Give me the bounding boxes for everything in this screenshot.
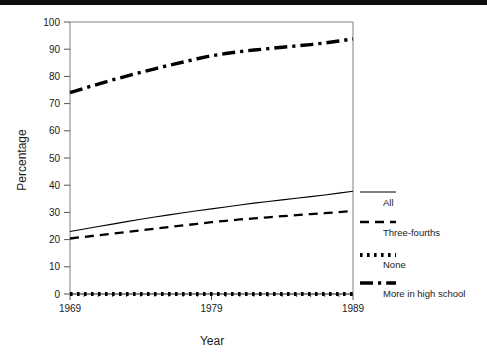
legend-label: None (383, 259, 406, 270)
legend-label: All (383, 197, 394, 208)
legend-label: More in high school (383, 288, 465, 299)
y-tick-label: 50 (49, 153, 61, 164)
y-axis-ticks (64, 22, 70, 294)
series-line (70, 211, 353, 238)
y-tick-label: 30 (49, 207, 61, 218)
y-tick-label: 40 (49, 180, 61, 191)
x-tick-label: 1979 (200, 303, 223, 314)
chart-figure: 0102030405060708090100 196919791989 Perc… (0, 0, 487, 356)
line-chart: 0102030405060708090100 196919791989 Perc… (0, 0, 487, 356)
y-tick-label: 80 (49, 71, 61, 82)
y-tick-label: 90 (49, 44, 61, 55)
series-line (70, 39, 353, 93)
plot-frame (70, 22, 353, 294)
x-axis-title: Year (200, 334, 224, 348)
series-layer (70, 39, 353, 294)
y-axis-title: Percentage (15, 129, 29, 191)
series-line (70, 191, 353, 231)
y-tick-label: 60 (49, 125, 61, 136)
y-tick-label: 100 (43, 17, 60, 28)
y-tick-label: 20 (49, 234, 61, 245)
chart-legend: AllThree-fourthsNoneMore in high school (360, 192, 465, 299)
x-tick-label: 1989 (342, 303, 365, 314)
x-tick-label: 1969 (59, 303, 82, 314)
y-axis-tick-labels: 0102030405060708090100 (43, 17, 60, 300)
y-tick-label: 0 (54, 289, 60, 300)
y-tick-label: 10 (49, 261, 61, 272)
y-tick-label: 70 (49, 98, 61, 109)
x-axis-tick-labels: 196919791989 (59, 303, 365, 314)
legend-label: Three-fourths (383, 227, 440, 238)
